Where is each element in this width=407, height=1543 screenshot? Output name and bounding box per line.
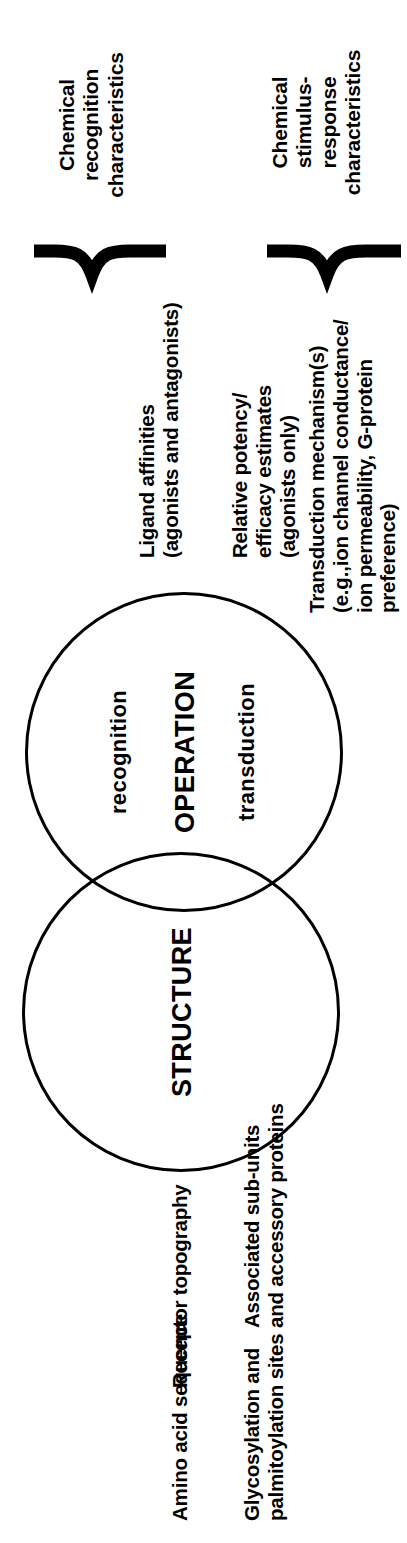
operation-circle-label: OPERATION [170,595,201,909]
brace-recognition [30,241,170,315]
bracket-title-chemical-recognition: Chemical recognition characteristics [55,20,128,230]
bracket-title-chemical-stimulus-response: Chemical stimulus- response characterist… [268,15,365,230]
operation-circle: OPERATION recognition transduction [25,592,343,912]
brace-stimulus-response [263,241,405,315]
operation-recognition-label: recognition [106,595,132,909]
diagram-canvas: Amino acid sequence Glycosylation and pa… [0,0,407,1543]
operation-transduction-label: transduction [234,595,260,909]
